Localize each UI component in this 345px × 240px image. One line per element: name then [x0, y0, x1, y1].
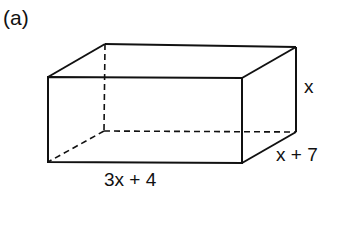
hidden-edge-left-bottom	[48, 131, 104, 162]
hidden-edge-back-bottom	[104, 131, 296, 132]
front-face	[48, 77, 242, 163]
edge-top-back	[105, 44, 296, 47]
edge-top-left	[48, 44, 105, 77]
hidden-edge-vertical	[104, 44, 105, 131]
depth-label: x + 7	[276, 145, 318, 164]
height-label: x	[304, 77, 314, 96]
width-label: 3x + 4	[104, 170, 156, 189]
edge-top-right	[242, 47, 296, 78]
